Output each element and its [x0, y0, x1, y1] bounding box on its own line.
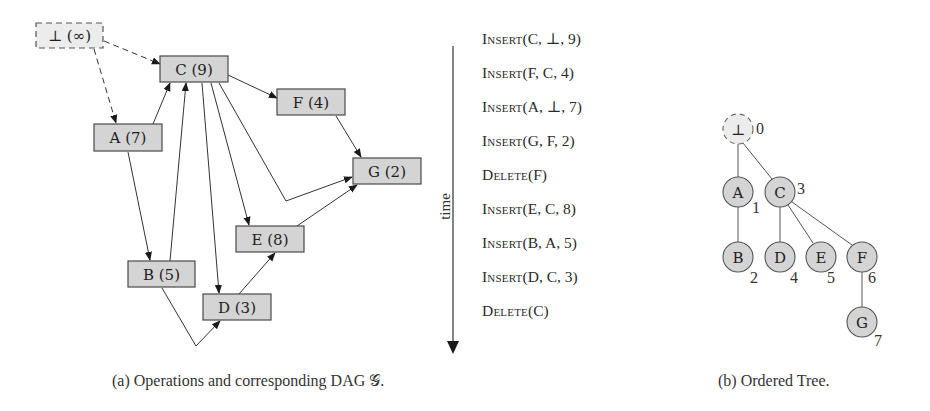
tree-node-C-label: C — [774, 184, 785, 202]
dag-node-D-label: D (3) — [218, 299, 256, 317]
operation-keyword: Delete — [482, 166, 528, 183]
caption-b: (b) Ordered Tree. — [718, 372, 830, 390]
operation-5: Delete(F) — [482, 166, 547, 184]
time-axis-label: time — [437, 193, 454, 220]
tree-node-B: B — [723, 242, 753, 272]
tree-node-A: A — [723, 177, 753, 207]
dag-node-A-label: A (7) — [109, 129, 147, 147]
tree-index-C: 3 — [797, 180, 805, 198]
tree-node-D-label: D — [774, 249, 786, 267]
tree-node-root-label: ⊥ — [731, 121, 745, 139]
edge-root-C — [104, 41, 160, 64]
dag-node-B-label: B (5) — [143, 266, 180, 284]
operation-keyword: Insert — [482, 268, 523, 285]
edge-F-G — [336, 116, 361, 157]
tree-node-C: C — [765, 177, 795, 207]
tree-index-A: 1 — [752, 199, 760, 217]
dag-node-root: ⊥ (∞) — [36, 23, 103, 48]
edge-B-C — [170, 83, 186, 261]
dag-node-C: C (9) — [160, 56, 228, 82]
operation-args: (E, C, 8) — [523, 200, 576, 217]
dag-node-G: G (2) — [353, 158, 421, 184]
operation-args: (A, ⊥, 7) — [523, 98, 582, 115]
edge-A-B — [128, 152, 150, 260]
operation-args: (F, C, 4) — [523, 64, 574, 81]
dag-node-C-label: C (9) — [175, 61, 213, 79]
dag-node-D: D (3) — [203, 294, 271, 320]
dag-node-F-label: F (4) — [293, 94, 329, 112]
operation-args: (F) — [528, 166, 547, 183]
operation-6: Insert(E, C, 8) — [482, 200, 576, 218]
tree-node-E: E — [806, 242, 836, 272]
operation-2: Insert(F, C, 4) — [482, 64, 574, 82]
tree-node-D: D — [765, 242, 795, 272]
operation-args: (B, A, 5) — [523, 234, 577, 251]
caption-a: (a) Operations and corresponding DAG 𝒢. — [112, 372, 384, 390]
operation-keyword: Delete — [482, 302, 528, 319]
operation-args: (D, C, 3) — [523, 268, 578, 285]
edge-D-E — [239, 253, 275, 294]
tree-index-G: 7 — [874, 332, 882, 350]
dag-node-B: B (5) — [128, 261, 195, 287]
tree-node-B-label: B — [732, 249, 743, 267]
edge-C-F — [228, 75, 277, 98]
operation-keyword: Insert — [482, 30, 523, 47]
edge-C-D — [202, 83, 219, 293]
tree-node-F: F — [847, 242, 877, 272]
tree-index-B: 2 — [750, 269, 758, 287]
tree-node-F-label: F — [857, 249, 867, 267]
dag-node-E: E (8) — [236, 226, 304, 252]
tree-node-G-label: G — [856, 314, 868, 332]
time-arrowhead-icon — [447, 341, 459, 354]
edge-root-A — [94, 49, 116, 123]
operation-keyword: Insert — [482, 200, 523, 217]
edge-E-G — [297, 185, 357, 226]
tree-node-E-label: E — [816, 249, 827, 267]
tree-node-A-label: A — [732, 184, 744, 202]
operation-8: Insert(D, C, 3) — [482, 268, 578, 286]
operation-keyword: Insert — [482, 64, 523, 81]
dag-node-F: F (4) — [277, 89, 345, 115]
tree-node-G: G — [847, 307, 877, 337]
operation-args: (G, F, 2) — [523, 132, 575, 149]
operation-9: Delete(C) — [482, 302, 549, 320]
operation-keyword: Insert — [482, 98, 523, 115]
operation-keyword: Insert — [482, 234, 523, 251]
figure-canvas: ⊥ (∞) C (9) F (4) A (7) G (2) E (8) B (5… — [0, 0, 930, 411]
edge-A-C — [153, 83, 170, 124]
dag-node-root-label: ⊥ (∞) — [48, 27, 91, 45]
tree-index-root: 0 — [756, 120, 764, 138]
operation-1: Insert(C, ⊥, 9) — [482, 30, 581, 48]
dag-node-G-label: G (2) — [368, 163, 406, 181]
operation-4: Insert(G, F, 2) — [482, 132, 575, 150]
tree-index-F: 6 — [868, 269, 876, 287]
edge-C-E — [211, 83, 249, 225]
tree-index-D: 4 — [790, 269, 798, 287]
dag-node-E-label: E (8) — [252, 231, 289, 249]
tree-node-root: ⊥ — [723, 114, 753, 144]
tree-index-E: 5 — [827, 269, 835, 287]
operation-args: (C) — [528, 302, 549, 319]
operation-keyword: Insert — [482, 132, 523, 149]
operation-args: (C, ⊥, 9) — [523, 30, 582, 47]
dag-node-A: A (7) — [94, 124, 162, 151]
operation-3: Insert(A, ⊥, 7) — [482, 98, 582, 116]
operation-7: Insert(B, A, 5) — [482, 234, 577, 252]
